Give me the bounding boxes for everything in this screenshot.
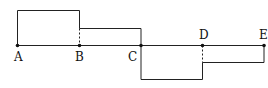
- point-d: [201, 44, 205, 48]
- segment-b-c: [80, 29, 142, 46]
- label-e: E: [259, 28, 268, 42]
- label-b: B: [75, 50, 84, 64]
- point-a: [16, 44, 20, 48]
- step-diagram: A B C D E: [0, 0, 268, 88]
- segment-d-e: [203, 46, 265, 63]
- label-d: D: [199, 28, 209, 42]
- segment-c-d: [141, 46, 203, 80]
- point-b: [78, 44, 82, 48]
- label-c: C: [128, 50, 137, 64]
- point-c: [139, 44, 143, 48]
- point-e: [262, 44, 266, 48]
- label-a: A: [13, 50, 23, 64]
- segment-a-b: [18, 11, 80, 46]
